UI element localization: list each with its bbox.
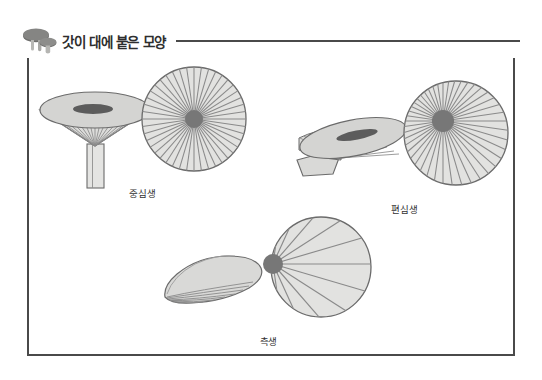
mushroom-side-view-central <box>35 86 155 191</box>
mushroom-cap-view-lateral <box>263 212 373 322</box>
figure-row <box>35 64 250 182</box>
figure-group-central: 중심생 <box>35 64 250 214</box>
mushroom-side-view-eccentric <box>295 108 415 188</box>
figure-row <box>161 216 376 334</box>
mushroom-cap-view-central <box>139 64 249 174</box>
diagram-frame: 중심생 <box>27 58 515 356</box>
mushroom-cap-view-eccentric <box>401 78 511 188</box>
header-rule <box>176 40 520 42</box>
header: 갓이 대에 붙은 모양 <box>22 24 520 58</box>
mushroom-side-view-lateral <box>161 242 271 312</box>
page-title: 갓이 대에 붙은 모양 <box>62 31 166 52</box>
figure-label-lateral: 측생 <box>161 334 376 348</box>
figure-label-central: 중심생 <box>35 186 250 200</box>
mushroom-icon <box>22 26 58 56</box>
figure-group-eccentric: 편심생 <box>297 82 512 222</box>
figure-group-lateral: 측생 <box>161 216 376 351</box>
figure-row <box>297 82 512 200</box>
